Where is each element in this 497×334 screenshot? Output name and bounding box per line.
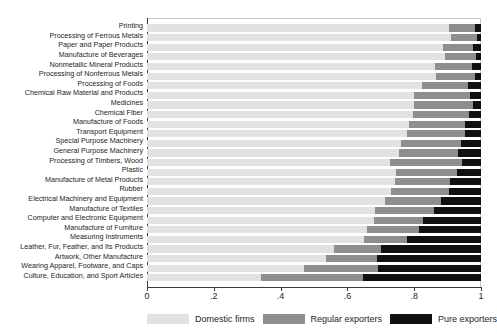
category-label: Printing bbox=[0, 21, 143, 31]
bar-segment-regular-exporters bbox=[435, 63, 472, 70]
bar-segment-pure-exporters bbox=[407, 236, 481, 243]
stacked-bar bbox=[147, 265, 481, 272]
legend-label: Regular exporters bbox=[311, 314, 383, 324]
x-axis-tick-label: .2 bbox=[199, 291, 229, 301]
bar-segment-pure-exporters bbox=[462, 159, 481, 166]
category-label: Manufacture of Textiles bbox=[0, 204, 143, 214]
category-label: Transport Equipment bbox=[0, 127, 143, 137]
bar-segment-domestic-firms bbox=[147, 44, 443, 51]
bar-segment-regular-exporters bbox=[367, 226, 419, 233]
legend-item-domestic-firms: Domestic firms bbox=[147, 314, 255, 324]
bar-segment-pure-exporters bbox=[477, 34, 481, 41]
bar-segment-regular-exporters bbox=[334, 245, 381, 252]
stacked-bar bbox=[147, 24, 481, 31]
x-axis-tick-label: .4 bbox=[266, 291, 296, 301]
category-label: Manufacture of Furniture bbox=[0, 223, 143, 233]
legend-item-pure-exporters: Pure exporters bbox=[390, 314, 497, 324]
stacked-bar bbox=[147, 236, 481, 243]
bar-segment-pure-exporters bbox=[363, 274, 481, 281]
stacked-bar bbox=[147, 255, 481, 262]
bar-segment-domestic-firms bbox=[147, 226, 367, 233]
bar-segment-regular-exporters bbox=[422, 82, 467, 89]
bar-segment-regular-exporters bbox=[407, 130, 465, 137]
stacked-bar bbox=[147, 111, 481, 118]
x-axis-tick-label: 1 bbox=[466, 291, 496, 301]
bar-segment-regular-exporters bbox=[261, 274, 364, 281]
bar-segment-domestic-firms bbox=[147, 101, 414, 108]
bar-segment-pure-exporters bbox=[475, 24, 481, 31]
stacked-bar bbox=[147, 274, 481, 281]
bar-segment-pure-exporters bbox=[381, 245, 481, 252]
bar-segment-domestic-firms bbox=[147, 217, 374, 224]
stacked-bar bbox=[147, 149, 481, 156]
stacked-bar bbox=[147, 226, 481, 233]
x-axis-tick-label: 0 bbox=[132, 291, 162, 301]
bar-segment-domestic-firms bbox=[147, 197, 385, 204]
bar-row: Culture, Education, and Sport Articles bbox=[0, 273, 481, 283]
bar-segment-regular-exporters bbox=[449, 24, 475, 31]
bar-segment-regular-exporters bbox=[304, 265, 378, 272]
category-label: Medicines bbox=[0, 98, 143, 108]
bar-segment-domestic-firms bbox=[147, 188, 391, 195]
bar-segment-pure-exporters bbox=[457, 169, 481, 176]
bar-segment-domestic-firms bbox=[147, 159, 390, 166]
chart-legend: Domestic firmsRegular exportersPure expo… bbox=[147, 312, 495, 326]
category-label: Rubber bbox=[0, 184, 143, 194]
bar-segment-pure-exporters bbox=[469, 111, 481, 118]
stacked-bar bbox=[147, 101, 481, 108]
bar-segment-domestic-firms bbox=[147, 265, 304, 272]
bar-segment-domestic-firms bbox=[147, 73, 436, 80]
bar-segment-domestic-firms bbox=[147, 245, 334, 252]
bar-segment-domestic-firms bbox=[147, 169, 396, 176]
stacked-bar bbox=[147, 82, 481, 89]
bar-segment-regular-exporters bbox=[413, 111, 470, 118]
stacked-bar bbox=[147, 44, 481, 51]
legend-swatch bbox=[390, 314, 432, 324]
stacked-bar bbox=[147, 73, 481, 80]
bar-segment-domestic-firms bbox=[147, 121, 409, 128]
bar-segment-regular-exporters bbox=[326, 255, 378, 262]
legend-label: Pure exporters bbox=[438, 314, 497, 324]
x-axis-line bbox=[147, 287, 481, 288]
bar-segment-domestic-firms bbox=[147, 82, 422, 89]
category-label: Electrical Machinery and Equipment bbox=[0, 194, 143, 204]
bar-segment-regular-exporters bbox=[390, 159, 462, 166]
bar-segment-domestic-firms bbox=[147, 111, 413, 118]
bar-segment-pure-exporters bbox=[378, 265, 481, 272]
stacked-bar bbox=[147, 245, 481, 252]
bar-segment-regular-exporters bbox=[451, 34, 477, 41]
bar-segment-domestic-firms bbox=[147, 178, 395, 185]
category-label: Leather, Fur, Feather, and Its Products bbox=[0, 242, 143, 252]
category-label: Nonmetallic Mineral Products bbox=[0, 60, 143, 70]
bar-segment-domestic-firms bbox=[147, 24, 449, 31]
legend-label: Domestic firms bbox=[195, 314, 255, 324]
category-label: Manufacture of Foods bbox=[0, 117, 143, 127]
bar-segment-pure-exporters bbox=[468, 82, 481, 89]
bar-segment-pure-exporters bbox=[470, 92, 481, 99]
bar-segment-domestic-firms bbox=[147, 130, 407, 137]
category-label: Artwork, Other Manufacture bbox=[0, 252, 143, 262]
bar-segment-domestic-firms bbox=[147, 207, 375, 214]
bar-segment-regular-exporters bbox=[395, 178, 450, 185]
x-axis-tick-label: .6 bbox=[332, 291, 362, 301]
bar-segment-pure-exporters bbox=[450, 178, 481, 185]
bar-segment-domestic-firms bbox=[147, 236, 364, 243]
stacked-bar bbox=[147, 217, 481, 224]
category-label: Wearing Apparel, Footware, and Caps bbox=[0, 261, 143, 271]
bar-segment-domestic-firms bbox=[147, 140, 401, 147]
bar-segment-domestic-firms bbox=[147, 63, 435, 70]
bar-segment-pure-exporters bbox=[476, 53, 481, 60]
bar-segment-pure-exporters bbox=[465, 130, 481, 137]
bar-segment-domestic-firms bbox=[147, 274, 261, 281]
category-label: Manufacture of Metal Products bbox=[0, 175, 143, 185]
stacked-bar bbox=[147, 140, 481, 147]
bar-segment-pure-exporters bbox=[473, 101, 481, 108]
stacked-bar bbox=[147, 188, 481, 195]
category-label: Processing of Foods bbox=[0, 79, 143, 89]
legend-swatch bbox=[147, 314, 189, 324]
category-label: Measuring Instruments bbox=[0, 232, 143, 242]
category-label: Processing of Ferrous Metals bbox=[0, 31, 143, 41]
stacked-bar bbox=[147, 197, 481, 204]
bar-segment-regular-exporters bbox=[443, 44, 473, 51]
stacked-bar bbox=[147, 130, 481, 137]
